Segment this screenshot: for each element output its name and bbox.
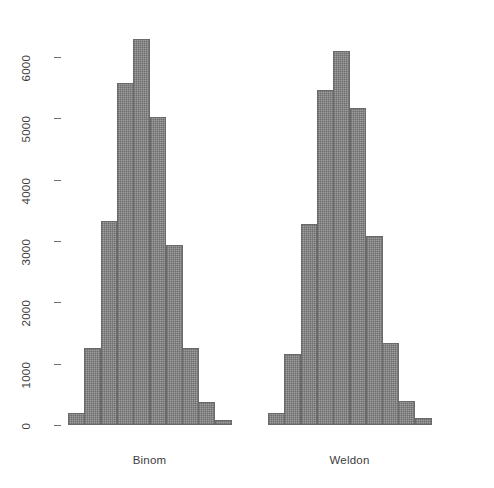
histogram-bar xyxy=(284,354,301,425)
histogram-bar xyxy=(101,221,118,425)
histogram-bar xyxy=(398,401,415,425)
histogram-bar xyxy=(150,117,167,425)
histogram-plot: 0100020003000400050006000 Binom Weldon xyxy=(0,0,494,488)
histogram-bar xyxy=(301,224,318,425)
plot-panel: Binom Weldon xyxy=(0,0,494,488)
histogram-bar xyxy=(317,90,334,425)
histogram-bar xyxy=(415,418,432,425)
group-label-binom: Binom xyxy=(68,454,231,466)
histogram-bar xyxy=(350,108,367,425)
histogram-bar xyxy=(382,343,399,425)
histogram-bar xyxy=(333,51,350,425)
histogram-group-binom xyxy=(68,0,231,425)
histogram-bar xyxy=(68,413,85,425)
histogram-bar xyxy=(182,348,199,425)
histogram-bar xyxy=(166,245,183,425)
histogram-bar xyxy=(366,236,383,425)
histogram-bar xyxy=(268,413,285,425)
histogram-bar xyxy=(84,348,101,425)
histogram-bar xyxy=(215,420,232,425)
histogram-bar xyxy=(133,39,150,425)
histogram-bar xyxy=(117,83,134,425)
histogram-group-weldon xyxy=(268,0,431,425)
histogram-bar xyxy=(198,402,215,425)
group-label-weldon: Weldon xyxy=(268,454,431,466)
